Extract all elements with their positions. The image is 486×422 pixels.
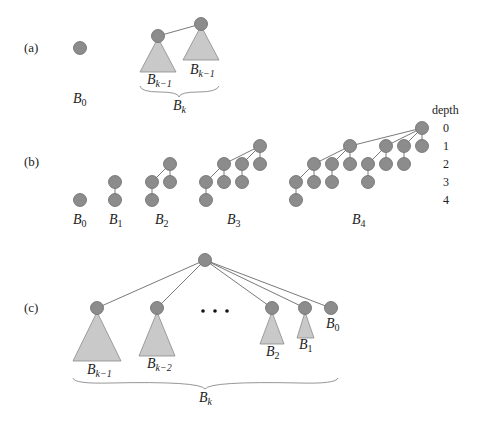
subtree-b2-triangle <box>260 312 284 344</box>
c-label-b2: B2 <box>266 344 280 361</box>
node-b0 <box>325 302 338 315</box>
subroot-bk-1 <box>91 302 104 315</box>
subroot-b2 <box>266 302 279 315</box>
panel-b: (b) <box>24 103 459 229</box>
subtree-b1-triangle <box>297 312 314 338</box>
panel-a-b0-label: B0 <box>73 91 87 108</box>
b-label-b4: B4 <box>352 212 366 229</box>
b-label-b0: B0 <box>73 212 87 229</box>
b-label-b2: B2 <box>155 212 169 229</box>
ellipsis-dot <box>225 309 229 313</box>
subtree-bk-2-triangle <box>139 312 175 356</box>
bk-brace-c <box>73 378 338 389</box>
ellipsis-dot <box>213 309 217 313</box>
tree-b0 <box>74 194 87 207</box>
tree-b2 <box>146 158 177 207</box>
c-label-bk-2: Bk−2 <box>147 356 172 373</box>
left-subtree-label: Bk−1 <box>147 72 172 89</box>
panel-c-label: (c) <box>24 300 38 315</box>
c-label-b0: B0 <box>326 316 340 333</box>
depth-1: 1 <box>443 139 449 153</box>
tree-b1 <box>109 176 122 207</box>
depth-2: 2 <box>443 157 449 171</box>
bk-label: Bk <box>173 98 187 115</box>
b-label-b1: B1 <box>109 212 123 229</box>
ellipsis-dot <box>201 309 205 313</box>
panel-c: (c) Bk−1 Bk−2 B2 B1 B0 Bk <box>24 254 340 408</box>
panel-a-label: (a) <box>24 40 38 55</box>
subtree-bk-1-triangle <box>73 312 121 361</box>
panel-a: (a) B0 Bk−1 Bk−1 Bk <box>24 18 219 116</box>
c-bk-label: Bk <box>199 390 213 407</box>
tree-b4 <box>290 122 429 207</box>
depth-4: 4 <box>443 193 449 207</box>
subroot-b1 <box>299 302 312 315</box>
b0-node <box>74 42 87 55</box>
binomial-trees-diagram: (a) B0 Bk−1 Bk−1 Bk (b) <box>0 0 486 422</box>
right-subtree-triangle <box>183 26 219 60</box>
depth-header: depth <box>432 103 459 117</box>
right-subtree-label: Bk−1 <box>190 62 215 79</box>
tree-b3 <box>200 140 267 207</box>
panel-b-label: (b) <box>24 154 39 169</box>
c-label-b1: B1 <box>299 337 313 354</box>
depth-3: 3 <box>443 175 449 189</box>
root-node <box>199 254 212 267</box>
c-label-bk-1: Bk−1 <box>87 362 112 379</box>
subroot-bk-2 <box>151 302 164 315</box>
bk-brace <box>140 86 219 97</box>
right-subtree-root <box>195 18 208 31</box>
depth-0: 0 <box>443 121 449 135</box>
left-subtree-root <box>152 30 165 43</box>
b-label-b3: B3 <box>227 212 241 229</box>
left-subtree-triangle <box>140 38 176 72</box>
